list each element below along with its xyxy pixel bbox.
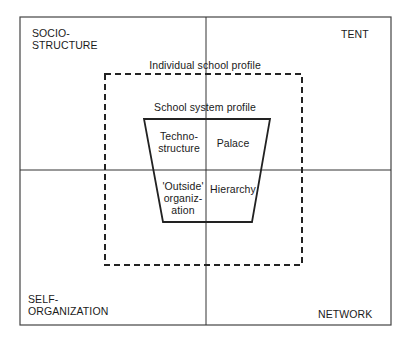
label-line: ORGANIZATION: [28, 305, 108, 317]
school-system-profile-label: School system profile: [140, 101, 270, 113]
quadrant-label-tent: TENT: [341, 28, 369, 40]
label-line: STRUCTURE: [32, 39, 98, 51]
label-line: organiz-: [160, 192, 206, 204]
individual-school-profile-label: Individual school profile: [130, 59, 280, 71]
label-line: structure: [154, 142, 204, 154]
label-line: SOCIO-: [32, 27, 98, 39]
diagram-canvas: [0, 0, 410, 343]
cell-outside-organization: 'Outside' organiz- ation: [160, 180, 206, 216]
label-line: ation: [160, 204, 206, 216]
cell-palace: Palace: [208, 137, 258, 149]
quadrant-label-self-organization: SELF- ORGANIZATION: [28, 293, 108, 317]
label-line: 'Outside': [160, 180, 206, 192]
quadrant-label-socio-structure: SOCIO- STRUCTURE: [32, 27, 98, 51]
label-line: Techno-: [154, 130, 204, 142]
cell-technostructure: Techno- structure: [154, 130, 204, 154]
cell-hierarchy: Hierarchy: [207, 183, 259, 195]
quadrant-label-network: NETWORK: [318, 308, 372, 320]
label-line: SELF-: [28, 293, 108, 305]
